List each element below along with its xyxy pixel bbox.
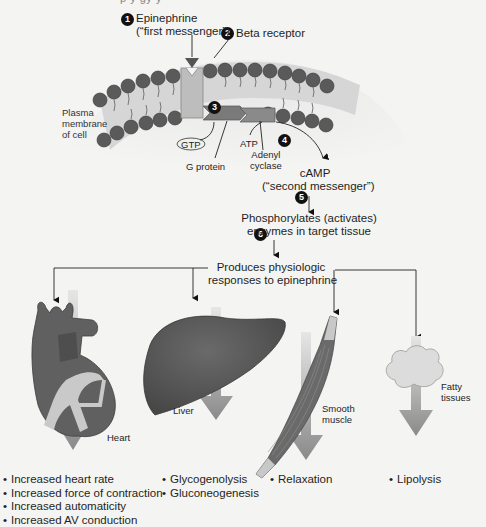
produces-responses-label: Produces physiologic responses to epinep… [208, 261, 334, 287]
heart-illustration [32, 302, 115, 436]
heart-effects-list: Increased heart rate Increased force of … [3, 473, 163, 527]
plasma-membrane-label: Plasma membrane of cell [62, 107, 107, 140]
gtp-label: GTP [181, 139, 201, 150]
fat-label-line1: Fatty [441, 381, 471, 392]
epinephrine-label-line2: (“first messenger”) [136, 25, 230, 38]
liver-effect-item: Glycogenolysis [162, 473, 259, 487]
step-badge-4: 4 [278, 134, 291, 147]
step-badge-3: 3 [208, 101, 221, 114]
g-protein-label: G protein [186, 161, 225, 172]
muscle-effects-list: Relaxation [270, 473, 332, 487]
membrane-label-line3: of cell [62, 129, 107, 140]
produces-line2: responses to epinephrine [208, 274, 334, 287]
beta-receptor-shape [181, 68, 203, 118]
atp-label: ATP [240, 138, 258, 149]
fat-label-line2: tissues [441, 392, 471, 403]
heart-label: Heart [107, 432, 130, 443]
beta-receptor-label: Beta receptor [236, 27, 305, 40]
fat-effect-item: Lipolysis [389, 473, 441, 487]
heart-effect-item: Increased automaticity [3, 500, 163, 514]
liver-effects-list: Glycogenolysis Gluconeogenesis [162, 473, 259, 500]
muscle-label-line2: muscle [322, 414, 355, 425]
camp-label-line1: cAMP [262, 167, 368, 180]
camp-label-line2: (“second messenger”) [262, 180, 368, 193]
adenyl-label-line1: Adenyl [250, 149, 282, 160]
membrane-label-line1: Plasma [62, 107, 107, 118]
phosphorylates-line2: enzymes in target tissue [240, 225, 378, 238]
heart-effect-item: Increased heart rate [3, 473, 163, 487]
muscle-label-line1: Smooth [322, 403, 355, 414]
heart-effect-item: Increased force of contraction [3, 487, 163, 501]
liver-effect-item: Gluconeogenesis [162, 487, 259, 501]
fatty-tissue-illustration [386, 346, 443, 388]
heart-effect-item: Increased AV conduction [3, 514, 163, 527]
smooth-muscle-label: Smooth muscle [322, 403, 355, 425]
membrane-label-line2: membrane [62, 118, 107, 129]
liver-label: Liver [173, 405, 194, 416]
phosphorylates-line1: Phosphorylates (activates) [240, 212, 378, 225]
phosphorylates-label: Phosphorylates (activates) enzymes in ta… [240, 212, 378, 238]
fatty-tissues-label: Fatty tissues [441, 381, 471, 403]
fat-effects-list: Lipolysis [389, 473, 441, 487]
produces-line1: Produces physiologic [208, 261, 334, 274]
epinephrine-label-line1: Epinephrine [136, 12, 230, 25]
epinephrine-label: Epinephrine (“first messenger”) [136, 12, 230, 38]
step-badge-1: 1 [121, 13, 134, 26]
camp-label: cAMP (“second messenger”) [262, 167, 368, 193]
muscle-effect-item: Relaxation [270, 473, 332, 487]
